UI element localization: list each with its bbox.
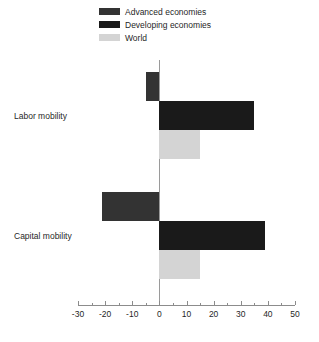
x-axis-minor-tick [119, 303, 120, 305]
x-axis-tick [214, 301, 215, 305]
x-axis-minor-tick [200, 303, 201, 305]
x-axis-minor-tick [254, 303, 255, 305]
plot-area: Labor mobilityCapital mobility [0, 60, 319, 305]
x-axis-minor-tick [146, 303, 147, 305]
bar [159, 250, 200, 279]
x-axis-tick-label: 10 [182, 309, 191, 319]
x-axis-tick [241, 301, 242, 305]
bar [159, 221, 265, 250]
x-axis-minor-tick [92, 303, 93, 305]
category-label: Labor mobility [14, 111, 67, 121]
x-axis-tick [268, 301, 269, 305]
x-axis-tick [78, 301, 79, 305]
x-axis-tick-label: -10 [126, 309, 138, 319]
bar [159, 130, 200, 159]
bar [146, 72, 160, 101]
x-axis: -30-20-1001020304050 [0, 305, 319, 342]
x-axis-tick [159, 301, 160, 305]
x-axis-tick-label: 30 [236, 309, 245, 319]
x-axis-tick-label: 40 [263, 309, 272, 319]
x-axis-line [78, 305, 295, 306]
x-axis-minor-tick [281, 303, 282, 305]
x-axis-tick-label: 0 [157, 309, 162, 319]
x-axis-tick [105, 301, 106, 305]
x-axis-tick-label: -30 [72, 309, 84, 319]
bar [102, 192, 159, 221]
bar-chart: Labor mobilityCapital mobility -30-20-10… [0, 0, 319, 342]
x-axis-tick-label: 50 [290, 309, 299, 319]
category-label: Capital mobility [14, 231, 72, 241]
x-axis-tick-label: -20 [99, 309, 111, 319]
x-axis-tick [187, 301, 188, 305]
x-axis-minor-tick [173, 303, 174, 305]
x-axis-minor-tick [227, 303, 228, 305]
x-axis-tick-label: 20 [209, 309, 218, 319]
x-axis-tick [132, 301, 133, 305]
bar [159, 101, 254, 130]
x-axis-tick [295, 301, 296, 305]
